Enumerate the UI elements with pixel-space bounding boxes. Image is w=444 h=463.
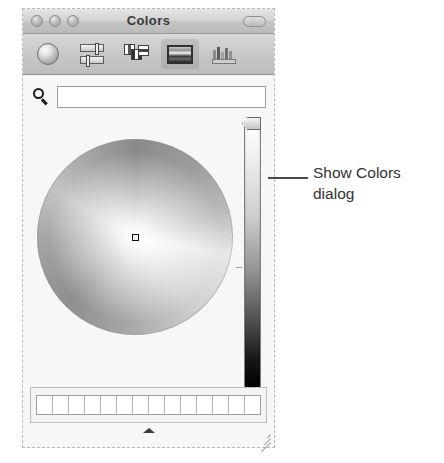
callout-label: Show Colors dialog bbox=[313, 163, 438, 205]
swatch-cell[interactable] bbox=[117, 396, 133, 414]
resize-grip[interactable] bbox=[256, 429, 272, 445]
search-icon bbox=[31, 87, 51, 107]
search-row bbox=[31, 85, 266, 109]
swatch-cell[interactable] bbox=[245, 396, 260, 414]
pencils-button[interactable] bbox=[205, 39, 243, 69]
color-palettes-icon bbox=[124, 44, 148, 64]
expand-handle[interactable] bbox=[143, 428, 155, 433]
search-input[interactable] bbox=[57, 86, 266, 108]
swatch-cell[interactable] bbox=[53, 396, 69, 414]
brightness-slider-track[interactable] bbox=[244, 123, 261, 389]
color-picker-marker[interactable] bbox=[132, 234, 139, 241]
callout-leader-line bbox=[268, 177, 308, 179]
swatch-cell[interactable] bbox=[133, 396, 149, 414]
swatch-cell[interactable] bbox=[37, 396, 53, 414]
window-titlebar[interactable]: Colors bbox=[23, 9, 274, 34]
color-wheel-picker[interactable] bbox=[37, 139, 233, 335]
slider-tick bbox=[236, 267, 242, 268]
color-sliders-button[interactable] bbox=[73, 39, 111, 69]
image-palettes-icon bbox=[167, 45, 193, 64]
color-palettes-button[interactable] bbox=[117, 39, 155, 69]
color-wheel-area bbox=[29, 117, 239, 385]
swatch-cell[interactable] bbox=[69, 396, 85, 414]
swatch-cell[interactable] bbox=[165, 396, 181, 414]
color-wheel-icon bbox=[37, 43, 59, 65]
image-palettes-button[interactable] bbox=[161, 39, 199, 69]
colors-window: Colors bbox=[22, 8, 275, 448]
toolbar-pill-button[interactable] bbox=[243, 16, 266, 27]
swatch-cell[interactable] bbox=[85, 396, 101, 414]
color-wheel-button[interactable] bbox=[29, 39, 67, 69]
callout-line-1: Show Colors bbox=[313, 163, 438, 184]
swatch-cell[interactable] bbox=[229, 396, 245, 414]
swatch-cell[interactable] bbox=[181, 396, 197, 414]
swatch-cell[interactable] bbox=[213, 396, 229, 414]
screenshot-root: Colors bbox=[0, 0, 444, 463]
swatch-cell[interactable] bbox=[101, 396, 117, 414]
brightness-slider[interactable] bbox=[242, 115, 264, 391]
swatch-panel bbox=[30, 387, 267, 423]
mode-toolbar bbox=[23, 34, 274, 75]
callout-line-2: dialog bbox=[313, 184, 438, 205]
window-title: Colors bbox=[23, 13, 274, 28]
swatch-cell[interactable] bbox=[149, 396, 165, 414]
color-sliders-icon bbox=[80, 44, 104, 64]
swatch-strip bbox=[36, 395, 261, 415]
swatch-cell[interactable] bbox=[197, 396, 213, 414]
colors-body bbox=[23, 75, 274, 447]
pencils-icon bbox=[212, 45, 236, 64]
